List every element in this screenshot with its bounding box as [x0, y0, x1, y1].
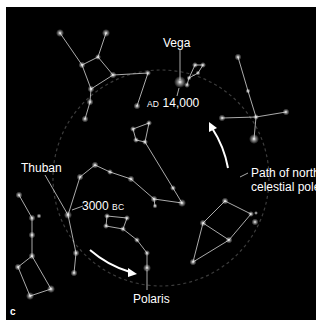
thuban-label: Thuban — [21, 162, 62, 175]
ad-year: 14,000 — [163, 96, 200, 110]
3000-bc-label: 3000 BC — [82, 200, 124, 214]
bc-suffix: BC — [112, 202, 124, 212]
vega-star — [174, 76, 186, 88]
ad-prefix: AD — [147, 99, 159, 109]
path-label-line1: Path of north — [251, 167, 320, 180]
bc-year: 3000 — [82, 199, 109, 213]
polaris-label: Polaris — [133, 293, 170, 306]
polaris-star — [143, 264, 151, 272]
arrowheads — [128, 122, 217, 277]
thuban-star — [64, 211, 72, 219]
path-label-line2: celestial pole — [251, 181, 320, 194]
ad-14000-label: AD 14,000 — [147, 97, 199, 111]
vega-label: Vega — [163, 37, 190, 50]
panel-letter: c — [10, 306, 16, 317]
